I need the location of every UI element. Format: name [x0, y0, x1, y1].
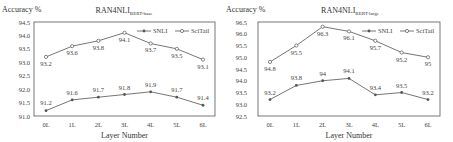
data-label: 93.2 [422, 89, 433, 96]
data-label: 93.1 [197, 63, 208, 70]
y-tick-label: 94.0 [19, 32, 30, 39]
chart-title: RAN4NLIBERT-large [321, 6, 380, 16]
legend: SNLISciTail [362, 27, 435, 34]
figure: Accuracy %RAN4NLIBERT-base91.091.592.092… [0, 0, 453, 142]
y-tick-label: 91.0 [19, 113, 30, 120]
y-axis-title: Accuracy % [2, 5, 42, 14]
series-snli: 93.293.89494.193.493.593.2 [264, 67, 433, 101]
data-point-marker [400, 51, 403, 54]
data-label: 96.3 [317, 30, 328, 37]
legend-marker-icon [143, 30, 146, 33]
data-point-marker [44, 55, 47, 58]
x-tick-label: 3L [121, 121, 128, 128]
data-label: 93.8 [93, 44, 104, 51]
data-point-marker [71, 98, 74, 101]
x-tick-label: 1L [293, 121, 300, 128]
data-label: 91.2 [40, 99, 51, 106]
x-tick-label: 0L [42, 121, 49, 128]
data-point-marker [175, 96, 178, 99]
data-label: 93.8 [291, 74, 302, 81]
data-point-marker [97, 39, 100, 42]
data-label: 93.5 [396, 82, 407, 89]
x-tick-label: 6L [199, 121, 206, 128]
chart-1: Accuracy %RAN4NLIBERT-base91.091.592.092… [2, 5, 215, 140]
data-label: 91.7 [171, 86, 183, 93]
y-tick-label: 96.0 [236, 30, 247, 37]
data-point-marker [321, 79, 324, 82]
chart-title-main: RAN4NLI [321, 6, 356, 15]
data-label: 91.7 [93, 86, 105, 93]
legend-label: SciTail [191, 27, 210, 34]
data-point-marker [269, 98, 272, 101]
data-point-marker [201, 58, 204, 61]
data-point-marker [149, 90, 152, 93]
x-tick-label: 5L [398, 121, 405, 128]
data-label: 91.6 [66, 89, 78, 96]
chart-2: Accuracy %RAN4NLIBERT-large92.593.093.59… [226, 5, 440, 140]
data-point-marker [295, 44, 298, 47]
data-label: 94.1 [343, 67, 354, 74]
series-scitail: 93.293.693.894.193.793.593.1 [40, 31, 208, 69]
data-label: 95.2 [396, 56, 407, 63]
data-point-marker [347, 30, 350, 33]
legend-marker-icon [405, 29, 408, 32]
x-tick-label: 1L [69, 121, 76, 128]
data-point-marker [268, 60, 271, 63]
data-label: 93.2 [40, 60, 51, 67]
data-label: 93.2 [264, 89, 275, 96]
data-label: 94.8 [264, 65, 275, 72]
legend-label: SciTail [416, 27, 435, 34]
y-tick-label: 92.5 [236, 113, 247, 120]
x-tick-label: 4L [147, 121, 154, 128]
x-tick-label: 2L [95, 121, 102, 128]
y-tick-label: 95.5 [236, 42, 247, 49]
data-label: 93.4 [370, 84, 382, 91]
data-label: 94 [319, 70, 326, 77]
series-snli: 91.291.691.791.891.991.791.4 [40, 81, 209, 112]
data-point-marker [427, 98, 430, 101]
chart-title: RAN4NLIBERT-base [96, 6, 154, 16]
data-point-marker [175, 47, 178, 50]
data-point-marker [45, 109, 48, 112]
data-label: 91.8 [119, 84, 130, 91]
data-point-marker [348, 77, 351, 80]
data-label: 93.6 [66, 49, 78, 56]
x-tick-label: 5L [173, 121, 180, 128]
y-axis-title: Accuracy % [226, 5, 266, 14]
x-tick-label: 3L [345, 121, 352, 128]
data-point-marker [97, 96, 100, 99]
data-point-marker [123, 93, 126, 96]
legend: SNLISciTail [137, 27, 210, 34]
y-tick-label: 94.5 [19, 19, 30, 26]
y-tick-label: 93.5 [19, 45, 30, 52]
data-point-marker [374, 39, 377, 42]
y-tick-label: 92.5 [19, 72, 30, 79]
chart-title-main: RAN4NLI [96, 6, 131, 15]
data-point-marker [295, 84, 298, 87]
data-label: 95 [425, 60, 432, 67]
data-point-marker [400, 91, 403, 94]
y-tick-label: 94.5 [236, 66, 247, 73]
y-tick-label: 93.0 [236, 101, 247, 108]
x-tick-label: 4L [372, 121, 379, 128]
chart-title-subscript: BERT-base [130, 11, 153, 16]
data-label: 91.9 [145, 81, 156, 88]
data-label: 94.1 [119, 36, 130, 43]
legend-label: SNLI [153, 27, 167, 34]
data-label: 95.7 [370, 44, 382, 51]
data-point-marker [149, 42, 152, 45]
x-axis-title: Layer Number [101, 131, 148, 140]
data-point-marker [374, 93, 377, 96]
data-point-marker [426, 56, 429, 59]
charts-svg: Accuracy %RAN4NLIBERT-base91.091.592.092… [0, 0, 453, 142]
data-point-marker [202, 104, 205, 107]
y-tick-label: 95.0 [236, 54, 247, 61]
data-label: 95.5 [291, 49, 302, 56]
y-tick-label: 96.5 [236, 19, 247, 26]
chart-title-subscript: BERT-large [355, 11, 379, 16]
x-tick-label: 6L [424, 121, 431, 128]
data-label: 91.4 [197, 94, 209, 101]
data-label: 96.1 [343, 34, 354, 41]
data-point-marker [123, 31, 126, 34]
y-tick-label: 93.0 [19, 59, 30, 66]
